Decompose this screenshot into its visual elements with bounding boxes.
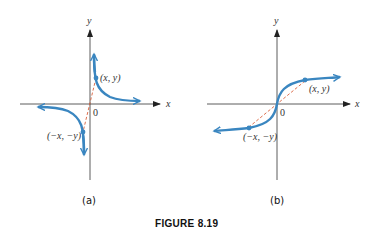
point-neg-xy <box>247 126 252 131</box>
point-neg-xy-label: (−x, −y) <box>243 131 278 143</box>
x-axis-label: x <box>165 98 171 109</box>
panel-a: x y 0 (x, y) (−x, −y) (a) <box>20 15 171 206</box>
x-axis-label: x <box>354 98 360 109</box>
figure-caption: FIGURE 8.19 <box>155 218 218 229</box>
point-xy <box>303 78 308 83</box>
panel-b: x y 0 (x, y) (−x, −y) (b) <box>207 15 360 206</box>
point-xy <box>94 76 99 81</box>
origin-label: 0 <box>93 107 98 118</box>
curve-branch-right-start <box>94 54 95 72</box>
point-neg-xy <box>81 130 86 135</box>
curve-branch-left-start <box>83 136 84 155</box>
point-xy-label: (x, y) <box>100 72 121 84</box>
point-xy-label: (x, y) <box>309 83 330 95</box>
point-neg-xy-label: (−x, −y) <box>47 130 82 142</box>
panel-a-sublabel: (a) <box>82 195 96 206</box>
origin-label: 0 <box>280 107 285 118</box>
y-axis-label: y <box>273 15 279 26</box>
panel-b-sublabel: (b) <box>270 195 284 206</box>
curve-left <box>214 104 277 131</box>
y-axis-label: y <box>86 15 92 26</box>
symmetry-dash <box>83 78 96 132</box>
figure-canvas: x y 0 (x, y) (−x, −y) (a) x y 0 (x, y) (… <box>0 0 378 237</box>
